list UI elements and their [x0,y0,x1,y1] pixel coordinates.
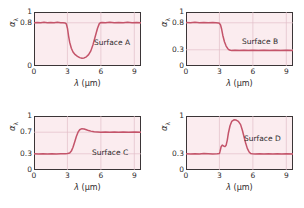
y-tick-b-2: 0.8 [172,19,184,27]
x-tick-d-2: 6 [250,172,255,180]
y-tick-b-1: 0.3 [172,46,184,54]
y-axis-label-a: αλ [7,18,19,27]
x-tick-c-1: 3 [65,172,70,180]
x-tick-b-3: 9 [284,68,289,76]
plot-svg-d [186,116,293,170]
panel-surface-c: 00.30.71 αλ Surface C 0369 λ (μm) [0,104,152,208]
plot-area-a: Surface A [34,12,141,66]
x-tick-d-1: 3 [217,172,222,180]
x-tick-d-0: 0 [184,172,189,180]
y-tick-d-1: 0.3 [172,150,184,158]
x-tick-b-2: 6 [250,68,255,76]
x-axis-label-a: λ (μm) [34,79,141,88]
series-label-a: Surface A [94,39,130,47]
panel-surface-a: 00.81 αλ Surface A 0369 λ (μm) [0,0,152,104]
series-label-b: Surface B [242,38,278,46]
x-tick-d-3: 9 [284,172,289,180]
y-tick-b-3: 1 [179,8,184,16]
plot-area-d: Surface D [186,116,293,170]
x-tick-b-1: 3 [217,68,222,76]
panel-surface-b: 00.30.81 αλ Surface B 0369 λ (μm) [152,0,304,104]
x-axis-label-c: λ (μm) [34,183,141,192]
series-label-d: Surface D [244,135,281,143]
x-tick-a-1: 3 [65,68,70,76]
y-axis-label-d: αλ [159,122,171,131]
x-tick-b-0: 0 [184,68,189,76]
x-tick-a-3: 9 [132,68,137,76]
y-tick-c-2: 0.7 [20,128,32,136]
x-axis-label-d: λ (μm) [186,183,293,192]
absorptivity-figure: 00.81 αλ Surface A 0369 λ (μm) 00.30.81 … [0,0,304,208]
y-axis-label-c: αλ [7,122,19,131]
x-tick-a-0: 0 [32,68,37,76]
y-tick-a-1: 0.8 [20,19,32,27]
plot-area-c: Surface C [34,116,141,170]
panel-surface-d: 00.31 αλ Surface D 0369 λ (μm) [152,104,304,208]
plot-svg-c [34,116,141,170]
plot-area-b: Surface B [186,12,293,66]
y-tick-d-2: 1 [179,112,184,120]
y-axis-label-b: αλ [159,18,171,27]
x-tick-c-3: 9 [132,172,137,180]
x-tick-a-2: 6 [98,68,103,76]
y-tick-a-2: 1 [27,8,32,16]
y-tick-c-3: 1 [27,112,32,120]
series-label-c: Surface C [92,149,128,157]
x-tick-c-0: 0 [32,172,37,180]
y-tick-c-1: 0.3 [20,150,32,158]
x-tick-c-2: 6 [98,172,103,180]
x-axis-label-b: λ (μm) [186,79,293,88]
